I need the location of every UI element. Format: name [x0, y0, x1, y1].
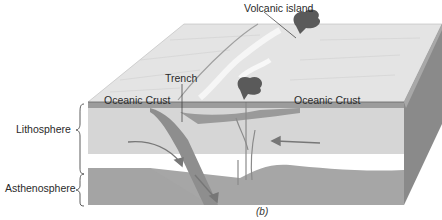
figure-caption: (b)	[256, 206, 268, 217]
asthenosphere-label: Asthenosphere	[5, 183, 76, 194]
subduction-block-diagram: Volcanic island Trench Oceanic Crust Oce…	[0, 0, 442, 220]
volcanic-island-label: Volcanic island	[244, 3, 313, 14]
oceanic-crust-left-label: Oceanic Crust	[104, 95, 171, 106]
oceanic-crust-right-label: Oceanic Crust	[294, 95, 361, 106]
lithosphere-label: Lithosphere	[16, 124, 71, 135]
trench-label: Trench	[165, 73, 197, 84]
lithosphere-brace	[76, 104, 84, 174]
asthenosphere-brace	[76, 174, 84, 206]
